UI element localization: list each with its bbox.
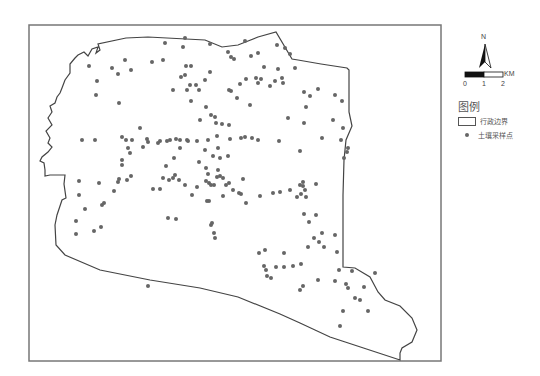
- sample-point: [120, 135, 124, 139]
- sample-point: [228, 137, 232, 141]
- sample-point: [232, 57, 236, 61]
- legend-label: 土壤采样点: [478, 130, 513, 140]
- sample-point: [322, 245, 326, 249]
- sample-point: [235, 96, 239, 100]
- sample-point: [262, 65, 266, 69]
- sample-point: [184, 64, 188, 68]
- sample-point: [241, 177, 245, 181]
- sample-point: [273, 79, 277, 83]
- sample-point: [304, 195, 308, 199]
- sample-point: [216, 146, 220, 150]
- sample-point: [185, 88, 189, 92]
- sample-point: [301, 180, 305, 184]
- sample-point: [342, 156, 346, 160]
- sample-point: [301, 184, 305, 188]
- sample-point: [172, 156, 176, 160]
- sample-point: [302, 121, 306, 125]
- sample-point: [213, 236, 217, 240]
- sample-point: [116, 72, 120, 76]
- sample-point: [166, 216, 170, 220]
- sample-point: [164, 164, 168, 168]
- sample-point: [112, 189, 116, 193]
- sample-point: [283, 46, 287, 50]
- sample-point: [262, 264, 266, 268]
- sample-point: [291, 264, 295, 268]
- scale-tick-1: 1: [482, 80, 486, 87]
- sample-point: [130, 138, 134, 142]
- sample-point: [345, 150, 349, 154]
- sample-point: [80, 138, 84, 142]
- sample-point: [77, 193, 81, 197]
- sample-point: [161, 58, 165, 62]
- sample-point: [92, 229, 96, 233]
- sample-point: [298, 288, 302, 292]
- sample-point: [214, 121, 218, 125]
- sample-point: [158, 187, 162, 191]
- sample-point: [308, 94, 312, 98]
- sample-point: [77, 179, 81, 183]
- sample-point: [83, 207, 87, 211]
- sample-point: [264, 268, 268, 272]
- sample-point: [203, 148, 207, 152]
- sample-point: [125, 178, 129, 182]
- sample-point: [208, 70, 212, 74]
- sample-point: [226, 154, 230, 158]
- sample-point: [102, 201, 106, 205]
- sample-point: [257, 251, 261, 255]
- sample-point: [263, 248, 267, 252]
- sample-point: [212, 231, 216, 235]
- sample-point: [126, 146, 130, 150]
- scale-bar: [465, 72, 503, 77]
- sample-point: [316, 278, 320, 282]
- sample-point: [331, 118, 335, 122]
- sample-point: [286, 116, 290, 120]
- sample-point: [256, 81, 260, 85]
- sample-point: [141, 145, 145, 149]
- sample-point: [341, 309, 345, 313]
- scale-tick-0: 0: [463, 80, 467, 87]
- sample-point: [303, 188, 307, 192]
- sample-point: [203, 78, 207, 82]
- sample-point: [205, 199, 209, 203]
- map-canvas: [0, 0, 540, 376]
- sample-point: [226, 50, 230, 54]
- sample-point: [220, 122, 224, 126]
- sample-point: [362, 285, 366, 289]
- sample-point: [271, 191, 275, 195]
- sample-point: [317, 240, 321, 244]
- sample-point: [128, 151, 132, 155]
- sample-point: [307, 220, 311, 224]
- sample-point: [227, 88, 231, 92]
- sample-point: [249, 54, 253, 58]
- sample-point: [188, 83, 192, 87]
- sample-point: [174, 137, 178, 141]
- sample-point: [212, 183, 216, 187]
- sample-point: [259, 77, 263, 81]
- sample-point: [231, 188, 235, 192]
- sample-point: [171, 176, 175, 180]
- sample-point: [302, 90, 306, 94]
- sample-point: [215, 134, 219, 138]
- sample-point: [335, 250, 339, 254]
- sample-point: [177, 178, 181, 182]
- sample-point: [206, 172, 210, 176]
- sample-point: [213, 115, 217, 119]
- sample-point: [156, 141, 160, 145]
- sample-point: [350, 269, 354, 273]
- sample-point: [254, 76, 258, 80]
- sample-point: [129, 174, 133, 178]
- sample-point: [179, 75, 183, 79]
- sample-point: [301, 284, 305, 288]
- sample-point: [178, 138, 182, 142]
- sample-point: [189, 64, 193, 68]
- sample-point: [373, 271, 377, 275]
- sample-point: [120, 163, 124, 167]
- north-arrow-icon: [479, 44, 491, 68]
- sample-point: [295, 195, 299, 199]
- sample-point: [146, 140, 150, 144]
- sample-point: [268, 84, 272, 88]
- sample-point: [275, 43, 279, 47]
- sample-point: [293, 66, 297, 70]
- sample-point: [341, 126, 345, 130]
- sample-point: [320, 136, 324, 140]
